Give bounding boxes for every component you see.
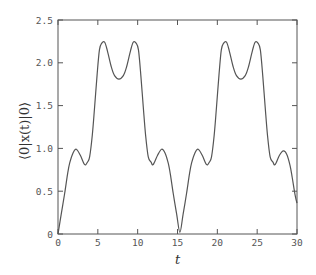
x-tick-label: 20 [212, 237, 224, 248]
y-tick-label: 2.5 [36, 15, 53, 26]
y-axis-tick-labels: 00.51.01.52.02.5 [36, 15, 53, 240]
x-tick-label: 25 [251, 237, 262, 248]
x-axis-tick-labels: 051015202530 [55, 237, 303, 248]
y-tick-label: 1.5 [36, 100, 53, 111]
x-axis-title: t [175, 252, 181, 267]
x-tick-label: 15 [172, 237, 183, 248]
y-tick-label: 0.5 [36, 186, 53, 197]
y-tick-label: 2.0 [36, 57, 53, 68]
x-tick-label: 10 [132, 237, 144, 248]
y-tick-label: 0 [47, 229, 53, 240]
x-tick-label: 5 [95, 237, 101, 248]
x-tick-label: 30 [291, 237, 303, 248]
y-axis-title: ⟨0|x(t)|0⟩ [17, 102, 32, 160]
line-chart: 051015202530 00.51.01.52.02.5 t ⟨0|x(t)|… [0, 0, 316, 275]
x-tick-label: 0 [55, 237, 61, 248]
y-tick-label: 1.0 [36, 143, 53, 154]
data-line [58, 42, 297, 234]
